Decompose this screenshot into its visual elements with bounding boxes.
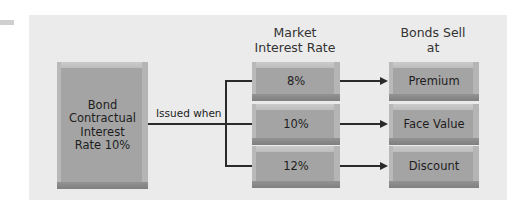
heading-line: Bonds Sell <box>383 25 483 40</box>
corner-mark <box>0 20 14 25</box>
outcome-label: Face Value <box>403 118 464 132</box>
heading-line: Market <box>245 25 345 40</box>
bonds-sell-heading: Bonds Sell at <box>383 25 483 55</box>
rate-value: 10% <box>283 118 309 132</box>
box-line: Bond <box>69 99 136 113</box>
branch-bottom-line <box>225 165 252 167</box>
contractual-rate-box: Bond Contractual Interest Rate 10% <box>57 62 148 189</box>
rate-box-8: 8% <box>252 62 340 101</box>
issued-when-label: Issued when <box>156 107 222 119</box>
box-line: Interest <box>69 126 136 140</box>
premium-box: Premium <box>389 62 479 101</box>
rate-box-12: 12% <box>252 146 340 188</box>
box-line: Rate 10% <box>69 139 136 153</box>
branch-top-line <box>225 80 252 82</box>
arrowhead-icon <box>380 77 388 85</box>
arrow-line-premium <box>340 80 382 82</box>
arrowhead-icon <box>380 120 388 128</box>
outcome-label: Discount <box>409 160 460 174</box>
rate-value: 12% <box>283 160 309 174</box>
heading-line: at <box>383 40 483 55</box>
market-rate-heading: Market Interest Rate <box>245 25 345 55</box>
arrowhead-icon <box>380 162 388 170</box>
box-line: Contractual <box>69 112 136 126</box>
outcome-label: Premium <box>408 75 459 89</box>
heading-line: Interest Rate <box>245 40 345 55</box>
rate-box-10: 10% <box>252 104 340 145</box>
discount-box: Discount <box>389 146 479 188</box>
branch-mid-line <box>225 123 252 125</box>
rate-value: 8% <box>287 75 305 89</box>
arrow-line-face-value <box>340 123 382 125</box>
face-value-box: Face Value <box>389 104 479 145</box>
arrow-line-discount <box>340 165 382 167</box>
